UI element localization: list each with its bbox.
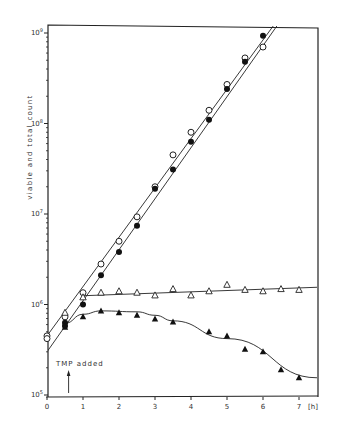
x-unit-label: [h] <box>308 403 318 411</box>
arrow-up-icon <box>67 370 71 376</box>
x-tick-label: 7 <box>297 403 301 411</box>
filled-triangle-marker <box>224 332 230 338</box>
filled-circle-marker <box>98 272 104 278</box>
filled-triangle-marker <box>206 328 212 334</box>
open-triangle-marker <box>134 289 140 295</box>
filled-triangle-marker <box>98 307 104 313</box>
plot-frame <box>46 25 318 397</box>
x-tick-label: 3 <box>153 403 157 411</box>
annotations: TMP added <box>55 360 104 393</box>
filled-triangle-marker <box>170 319 176 325</box>
open-circle-marker <box>116 238 122 244</box>
filled-triangle-marker <box>296 374 302 380</box>
plot-border <box>48 25 318 397</box>
open-triangle-marker <box>296 286 302 292</box>
filled-circle-marker <box>80 302 86 308</box>
open-triangle-marker <box>62 309 68 315</box>
fit-line <box>47 23 276 336</box>
y-tick-label: 107 <box>31 208 43 218</box>
open-circle-marker <box>188 129 194 135</box>
open-triangle-marker <box>116 288 122 294</box>
open-circle-marker <box>98 261 104 267</box>
open-triangle-marker <box>224 281 230 287</box>
filled-circle-marker <box>206 117 212 123</box>
filled-triangle-marker <box>134 312 140 318</box>
open-circle-marker <box>206 107 212 113</box>
filled-circle-marker <box>260 33 266 39</box>
series-open-triangle <box>62 281 302 315</box>
filled-triangle-marker <box>152 316 158 322</box>
filled-circle-marker <box>134 223 140 229</box>
y-tick-label: 109 <box>31 27 43 37</box>
open-circle-marker <box>260 44 266 50</box>
filled-circle-marker <box>242 59 248 65</box>
fit-lines <box>47 23 317 378</box>
open-circle-marker <box>134 214 140 220</box>
filled-triangle-marker <box>242 346 248 352</box>
x-tick-label: 6 <box>261 403 266 411</box>
data-points <box>44 33 302 380</box>
annotation-text: TMP added <box>55 360 104 368</box>
series-filled-triangle <box>62 307 302 380</box>
open-triangle-marker <box>188 292 194 298</box>
x-tick-label: 0 <box>45 403 49 411</box>
filled-circle-marker <box>116 249 122 255</box>
y-axis: 105106107108109 <box>31 27 48 399</box>
open-triangle-marker <box>98 289 104 295</box>
open-triangle-marker <box>170 286 176 292</box>
filled-circle-marker <box>188 139 194 145</box>
filled-triangle-marker <box>116 309 122 315</box>
filled-circle-marker <box>224 86 230 92</box>
x-tick-label: 4 <box>189 403 194 411</box>
y-axis-title: viable and total count <box>26 94 34 199</box>
x-tick-label: 2 <box>117 403 121 411</box>
x-axis-line <box>46 396 318 397</box>
x-tick-label: 5 <box>225 403 229 411</box>
filled-circle-marker <box>152 186 158 192</box>
x-axis: 01234567[h] <box>45 397 318 411</box>
chart-figure: 105106107108109 01234567[h] TMP added vi… <box>0 0 340 439</box>
y-tick-label: 106 <box>31 299 43 309</box>
open-triangle-marker <box>260 288 266 294</box>
filled-circle-marker <box>170 167 176 173</box>
x-tick-label: 1 <box>81 403 85 411</box>
open-circle-marker <box>170 152 176 158</box>
y-tick-label: 105 <box>31 389 43 399</box>
open-circle-marker <box>44 336 50 342</box>
